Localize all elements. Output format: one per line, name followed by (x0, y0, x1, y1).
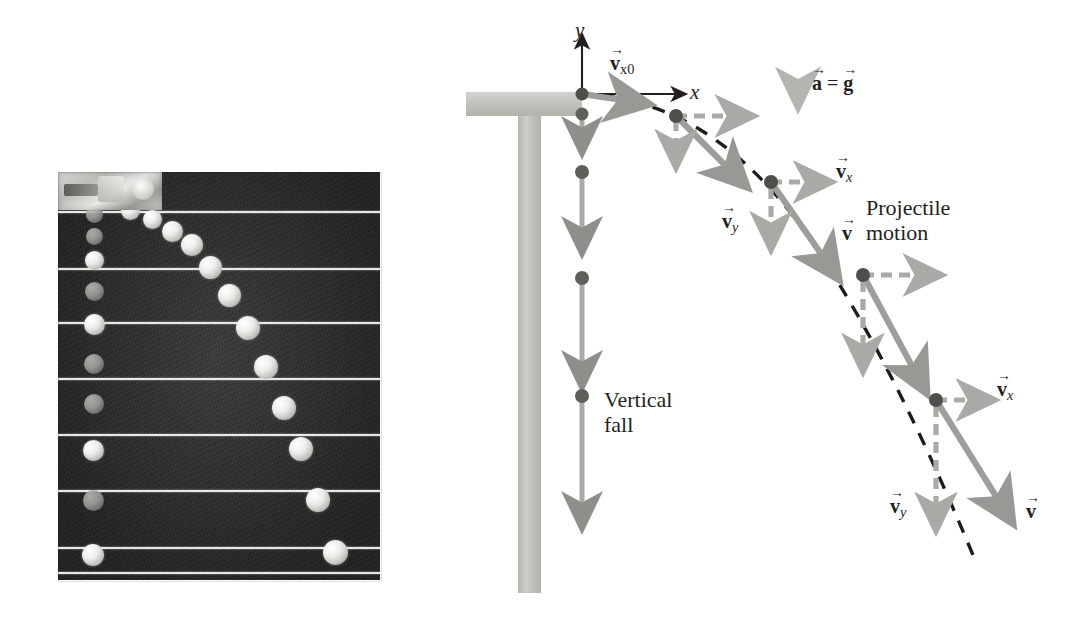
vector-arrow-icon: → (843, 63, 853, 77)
axis-label-y: y (575, 18, 584, 43)
resultant-velocity-vectors (582, 94, 1012, 522)
projectile-ball (856, 268, 870, 282)
projectile-motion-line1: Projectile (866, 196, 950, 221)
vertical-fall-line2: fall (604, 413, 672, 438)
label-v-mid: →v (842, 222, 852, 245)
projectile-ball (764, 175, 778, 189)
vy-component-vectors (676, 120, 936, 529)
vector-arrow-icon: → (610, 43, 620, 57)
vx-component-vectors (676, 116, 993, 400)
axis-label-x: x (690, 80, 699, 105)
vertical-fall-group (575, 108, 589, 528)
label-vx-low: →vx (997, 378, 1013, 404)
vector-arrow-icon: → (836, 151, 846, 165)
vector-diagram: y x →vx0 →a = →g →vx →vy →v →vx →vy →v V… (0, 0, 1073, 622)
label-projectile-motion: Projectile motion (866, 196, 950, 245)
diagram-svg (0, 0, 1073, 622)
label-v-low: →v (1026, 500, 1036, 523)
vector-arrow-icon: → (1026, 491, 1036, 505)
trajectory-dashed-path (582, 94, 975, 560)
projectile-motion-line2: motion (866, 221, 950, 246)
projectile-ball (576, 88, 589, 101)
table-support (466, 92, 582, 593)
projectile-ball (929, 393, 943, 407)
projectile-ball (669, 109, 683, 123)
vertical-fall-line1: Vertical (604, 388, 672, 413)
label-v-x0: →vx0 (610, 52, 634, 78)
vector-arrow-icon: → (997, 369, 1007, 383)
vector-arrow-icon: → (890, 486, 900, 500)
label-vy-low: →vy (890, 495, 906, 521)
vector-arrow-icon: → (842, 213, 852, 227)
label-a-equals-g: →a = →g (812, 72, 853, 95)
label-vertical-fall: Vertical fall (604, 388, 672, 437)
projectile-balls-group (576, 88, 944, 408)
projectile-motion-figure: y x →vx0 →a = →g →vx →vy →v →vx →vy →v V… (0, 0, 1073, 622)
label-vx-mid: →vx (836, 160, 852, 186)
label-vy-mid: →vy (722, 210, 738, 236)
vector-arrow-icon: → (722, 201, 732, 215)
vector-arrow-icon: → (812, 63, 822, 77)
